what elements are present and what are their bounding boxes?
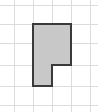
figure-canvas: Shaded polygon on square grid An L-shape…: [0, 0, 98, 112]
grid-vertical-lines: [15, 0, 91, 112]
grid-background: [0, 0, 98, 112]
